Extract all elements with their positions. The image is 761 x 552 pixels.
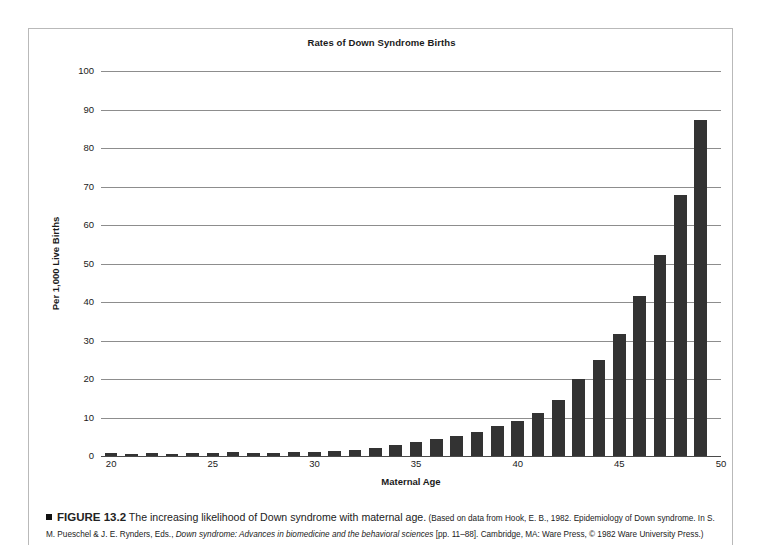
- figure-description: The increasing likelihood of Down syndro…: [129, 511, 426, 523]
- bar-age-27: [247, 453, 260, 456]
- bar-age-43: [572, 379, 585, 456]
- bar-age-31: [328, 451, 341, 456]
- figure-caption: FIGURE 13.2 The increasing likelihood of…: [46, 510, 718, 542]
- bar-age-23: [166, 454, 179, 456]
- bar-age-49: [694, 120, 707, 456]
- gridline-0: 0: [101, 456, 721, 457]
- bar-series: [101, 71, 721, 456]
- bar-age-37: [450, 436, 463, 456]
- bar-age-32: [349, 450, 362, 456]
- y-tick-label-100: 100: [78, 66, 94, 76]
- x-tick-label-20: 20: [106, 458, 117, 469]
- bar-age-21: [125, 454, 138, 456]
- bar-age-47: [654, 255, 667, 456]
- x-tick-label-40: 40: [512, 458, 523, 469]
- bar-age-46: [633, 296, 646, 456]
- y-tick-label-40: 40: [83, 297, 94, 307]
- plot-area: 0102030405060708090100 20253035404550 Ma…: [29, 29, 734, 484]
- figure-frame: Rates of Down Syndrome Births Per 1,000 …: [28, 28, 733, 545]
- bar-age-29: [288, 452, 301, 456]
- bar-age-25: [207, 453, 220, 456]
- y-tick-label-10: 10: [83, 413, 94, 423]
- bar-age-38: [471, 432, 484, 456]
- bullet-square-icon: [46, 514, 52, 520]
- y-tick-label-50: 50: [83, 259, 94, 269]
- plot: 0102030405060708090100: [101, 71, 721, 456]
- bar-age-42: [552, 400, 565, 456]
- x-tick-label-50: 50: [716, 458, 727, 469]
- bar-age-35: [410, 442, 423, 456]
- bar-age-34: [389, 445, 402, 456]
- x-tick-label-25: 25: [208, 458, 219, 469]
- bar-age-20: [105, 453, 118, 456]
- bar-age-48: [674, 195, 687, 456]
- figure-source-title: Down syndrome: Advances in biomedicine a…: [176, 530, 434, 539]
- bar-age-44: [593, 360, 606, 456]
- x-tick-label-35: 35: [411, 458, 422, 469]
- bar-age-26: [227, 452, 240, 456]
- figure-number: FIGURE 13.2: [57, 511, 126, 523]
- y-tick-label-70: 70: [83, 182, 94, 192]
- bar-age-24: [186, 453, 199, 456]
- y-tick-label-0: 0: [89, 451, 94, 461]
- bar-age-22: [146, 453, 159, 456]
- y-tick-label-20: 20: [83, 374, 94, 384]
- y-tick-label-90: 90: [83, 105, 94, 115]
- bar-age-39: [491, 426, 504, 456]
- bar-age-28: [267, 453, 280, 456]
- bar-age-36: [430, 439, 443, 456]
- bar-age-45: [613, 334, 626, 456]
- x-axis-ticks: 20253035404550: [101, 458, 721, 474]
- x-axis-title: Maternal Age: [101, 476, 721, 487]
- y-tick-label-30: 30: [83, 336, 94, 346]
- x-tick-label-45: 45: [614, 458, 625, 469]
- figure-source-part2: [pp. 11–88]. Cambridge, MA: Ware Press, …: [433, 530, 703, 539]
- bar-age-40: [511, 421, 524, 456]
- bar-age-41: [532, 413, 545, 456]
- bar-age-33: [369, 448, 382, 456]
- y-tick-label-60: 60: [83, 220, 94, 230]
- x-tick-label-30: 30: [309, 458, 320, 469]
- y-tick-label-80: 80: [83, 143, 94, 153]
- bar-age-30: [308, 452, 321, 456]
